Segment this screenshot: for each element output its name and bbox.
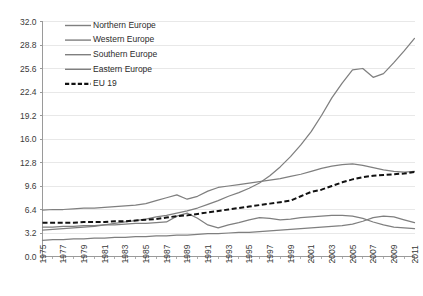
series-line-eu-19 [43, 172, 415, 223]
line-chart: 0.03.26.49.612.816.019.222.425.628.832.0… [0, 0, 423, 296]
x-tick-label: 2003 [327, 244, 337, 263]
series-line-southern-europe [43, 216, 415, 240]
chart-canvas: 0.03.26.49.612.816.019.222.425.628.832.0… [0, 0, 423, 296]
y-tick-label: 28.8 [20, 40, 37, 50]
x-tick-label: 1979 [79, 244, 89, 263]
x-tick-label: 1987 [162, 244, 172, 263]
series-line-western-europe [43, 164, 415, 210]
x-tick-label: 1989 [182, 244, 192, 263]
x-tick-label: 1999 [286, 244, 296, 263]
y-tick-label: 12.8 [20, 158, 37, 168]
x-tick-label: 1993 [224, 244, 234, 263]
x-tick-label: 1985 [141, 244, 151, 263]
x-tick-label: 1997 [265, 244, 275, 263]
y-tick-label: 6.4 [25, 205, 37, 215]
y-tick-label: 0.0 [25, 252, 37, 262]
y-axis-ticks: 0.03.26.49.612.816.019.222.425.628.832.0 [20, 17, 43, 262]
y-tick-label: 32.0 [20, 17, 37, 27]
x-tick-label: 1975 [38, 244, 48, 263]
legend-label: Northern Europe [93, 20, 156, 30]
x-tick-label: 1981 [100, 244, 110, 263]
x-axis-ticks: 1975197719791981198319851987198919911993… [38, 244, 420, 263]
x-tick-label: 2011 [410, 245, 420, 264]
x-tick-label: 1977 [58, 244, 68, 263]
x-tick-label: 2001 [306, 244, 316, 263]
x-tick-label: 1983 [120, 244, 130, 263]
y-tick-label: 9.6 [25, 181, 37, 191]
y-tick-label: 3.2 [25, 228, 37, 238]
x-tick-label: 2007 [368, 244, 378, 263]
x-tick-label: 1991 [203, 244, 213, 263]
y-tick-label: 22.4 [20, 87, 37, 97]
y-tick-label: 16.0 [20, 134, 37, 144]
legend-label: Southern Europe [93, 49, 158, 59]
legend-label: Western Europe [93, 34, 155, 44]
y-tick-label: 25.6 [20, 64, 37, 74]
legend: Northern EuropeWestern EuropeSouthern Eu… [65, 20, 158, 88]
legend-label: EU 19 [93, 78, 117, 88]
x-tick-label: 2009 [389, 244, 399, 263]
x-tick-label: 2005 [348, 244, 358, 263]
x-tick-label: 1995 [244, 244, 254, 263]
y-tick-label: 19.2 [20, 111, 37, 121]
legend-label: Eastern Europe [93, 64, 152, 74]
